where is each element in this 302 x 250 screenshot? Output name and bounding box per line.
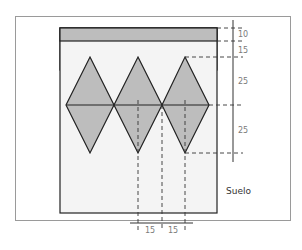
dim-label-10: 10 [238,30,248,39]
dim-label-15-left: 15 [145,226,155,235]
dim-label-15: 15 [238,46,248,55]
dim-label-25-upper: 25 [238,77,248,86]
top-band [60,28,217,41]
floor-label: Suelo [226,186,251,196]
dim-label-25-lower: 25 [238,126,248,135]
diagram-canvas: 10 15 25 25 15 15 Suelo [0,0,302,250]
dim-label-15-right: 15 [168,226,178,235]
